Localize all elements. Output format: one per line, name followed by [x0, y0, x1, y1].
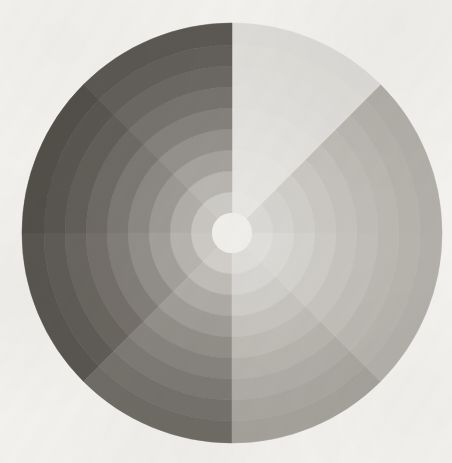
chart-center-hub [212, 213, 252, 253]
chart-page [0, 0, 452, 463]
radial-sector-chart [0, 0, 452, 463]
